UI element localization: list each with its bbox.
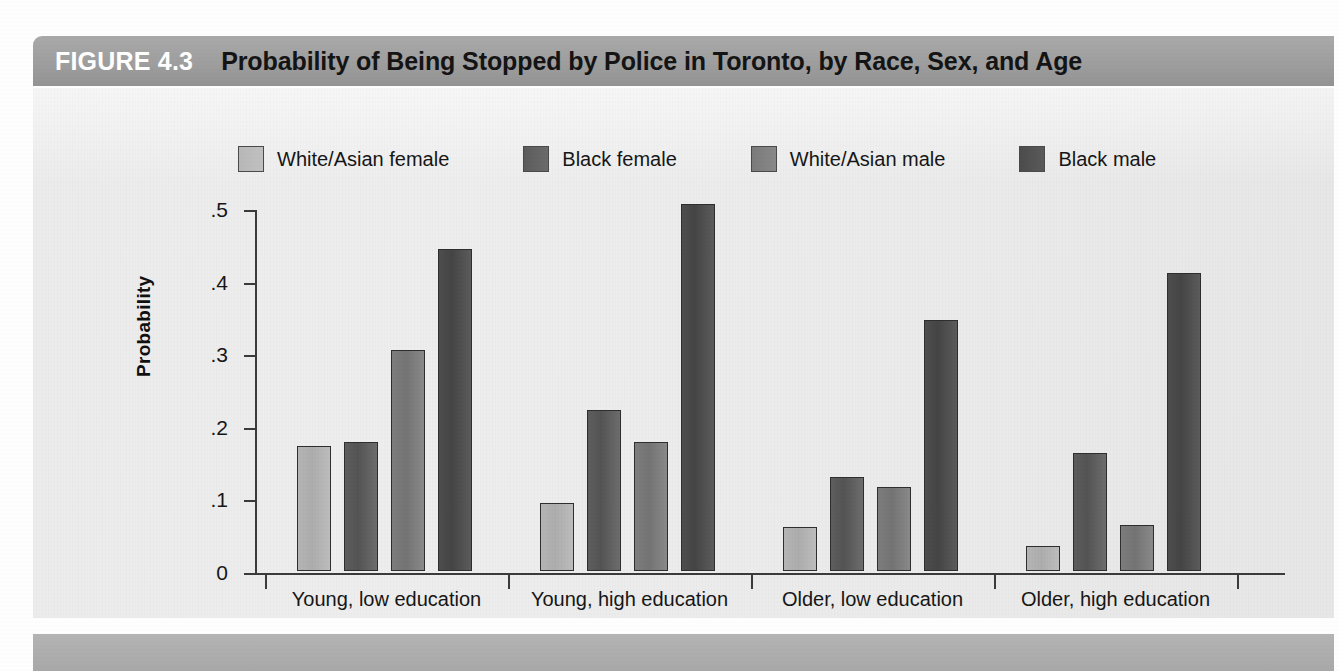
x-axis-category-label: Older, high education bbox=[1021, 588, 1210, 611]
y-axis-label: Probability bbox=[133, 276, 155, 377]
bar[interactable] bbox=[587, 410, 621, 571]
y-axis-tick: .3 bbox=[244, 355, 255, 357]
bar[interactable] bbox=[830, 477, 864, 571]
bar[interactable] bbox=[297, 446, 331, 571]
y-axis-tick: .4 bbox=[244, 283, 255, 285]
x-axis-tick bbox=[994, 575, 996, 589]
bar-group bbox=[297, 208, 472, 571]
x-axis-category-label: Young, low education bbox=[292, 588, 481, 611]
bar[interactable] bbox=[344, 442, 378, 571]
bar[interactable] bbox=[391, 350, 425, 571]
legend-swatch-icon bbox=[523, 146, 549, 172]
bar-group bbox=[1026, 208, 1201, 571]
x-axis-category-label: Young, high education bbox=[531, 588, 728, 611]
y-axis-tick-label: .5 bbox=[210, 198, 228, 222]
legend-item-2[interactable]: White/Asian male bbox=[751, 146, 946, 172]
y-axis-line bbox=[255, 210, 257, 574]
x-axis-tick bbox=[508, 575, 510, 589]
bar[interactable] bbox=[681, 204, 715, 571]
y-axis-tick: .2 bbox=[244, 428, 255, 430]
legend-item-0[interactable]: White/Asian female bbox=[238, 146, 449, 172]
bar[interactable] bbox=[540, 503, 574, 571]
x-axis-tick bbox=[1237, 575, 1239, 589]
bar[interactable] bbox=[924, 320, 958, 571]
bar[interactable] bbox=[1026, 546, 1060, 571]
legend-swatch-icon bbox=[1019, 146, 1045, 172]
bar[interactable] bbox=[438, 249, 472, 571]
legend-label: Black male bbox=[1058, 148, 1156, 171]
legend-swatch-icon bbox=[751, 146, 777, 172]
legend-swatch-icon bbox=[238, 146, 264, 172]
y-axis-tick: .5 bbox=[244, 210, 255, 212]
y-axis-tick: 0 bbox=[244, 573, 255, 575]
chart-legend: White/Asian femaleBlack femaleWhite/Asia… bbox=[238, 146, 1156, 172]
bar[interactable] bbox=[1120, 525, 1154, 571]
y-axis-tick-label: .3 bbox=[210, 343, 228, 367]
bar-group bbox=[783, 208, 958, 571]
plot-area: 0.1.2.3.4.5Young, low educationYoung, hi… bbox=[255, 210, 1285, 573]
legend-label: Black female bbox=[562, 148, 677, 171]
y-axis-tick: .1 bbox=[244, 500, 255, 502]
y-axis-tick-label: .2 bbox=[210, 415, 228, 439]
bar[interactable] bbox=[1167, 273, 1201, 571]
bar[interactable] bbox=[634, 442, 668, 571]
y-axis-tick-label: .1 bbox=[210, 488, 228, 512]
figure-page: FIGURE 4.3 Probability of Being Stopped … bbox=[0, 0, 1339, 671]
bar-group bbox=[540, 208, 715, 571]
x-axis-tick bbox=[265, 575, 267, 589]
x-axis-line bbox=[255, 573, 1285, 575]
x-axis-tick bbox=[751, 575, 753, 589]
legend-label: White/Asian male bbox=[790, 148, 946, 171]
figure-header-bar: FIGURE 4.3 Probability of Being Stopped … bbox=[33, 36, 1334, 86]
bar[interactable] bbox=[1073, 453, 1107, 571]
y-axis-tick-label: .4 bbox=[210, 270, 228, 294]
figure-number: FIGURE 4.3 bbox=[55, 47, 193, 76]
x-axis-category-label: Older, low education bbox=[782, 588, 963, 611]
bottom-gray-strip bbox=[33, 634, 1334, 671]
chart-panel: White/Asian femaleBlack femaleWhite/Asia… bbox=[33, 88, 1334, 618]
bar[interactable] bbox=[877, 487, 911, 571]
legend-item-1[interactable]: Black female bbox=[523, 146, 677, 172]
bar[interactable] bbox=[783, 527, 817, 571]
figure-title: Probability of Being Stopped by Police i… bbox=[221, 47, 1082, 76]
legend-label: White/Asian female bbox=[277, 148, 449, 171]
legend-item-3[interactable]: Black male bbox=[1019, 146, 1156, 172]
y-axis-tick-label: 0 bbox=[216, 561, 228, 585]
